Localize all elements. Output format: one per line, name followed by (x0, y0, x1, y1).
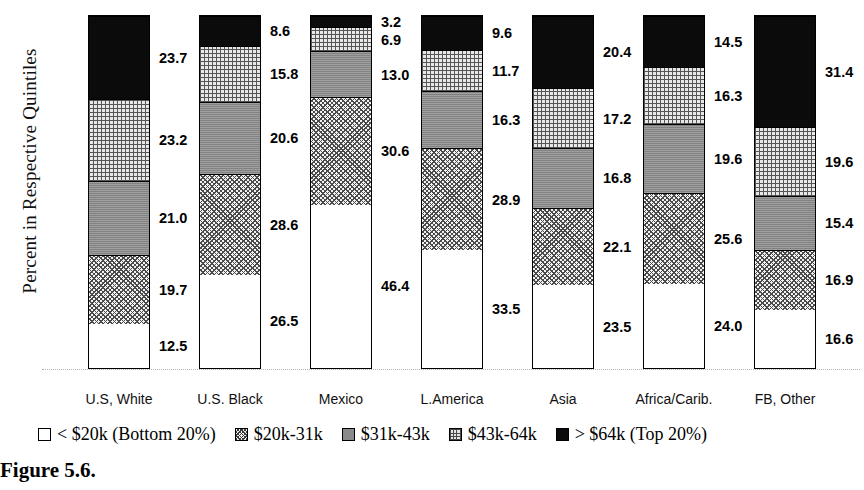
bar-segment[interactable]: 22.1 (533, 208, 593, 286)
bar-value-label: 19.7 (159, 282, 187, 298)
bar-segment[interactable]: 46.4 (311, 205, 371, 368)
legend-label: > $64k (Top 20%) (575, 424, 707, 445)
bar-segment[interactable]: 19.7 (89, 255, 149, 324)
bar-value-label: 19.6 (714, 151, 742, 167)
bar-value-label: 23.5 (603, 319, 631, 335)
legend-label: $43k-64k (468, 424, 537, 445)
bar-value-label: 16.8 (603, 170, 631, 186)
bar-segment[interactable]: 16.3 (422, 91, 482, 148)
bar-segment[interactable]: 16.9 (755, 250, 815, 309)
bar-stack[interactable]: 23.522.116.817.220.4 (532, 15, 594, 369)
bar-segment[interactable]: 11.7 (422, 50, 482, 91)
bar-value-label: 9.6 (492, 25, 512, 41)
bar-value-label: 46.4 (381, 278, 409, 294)
bar-stack[interactable]: 26.528.620.615.88.6 (199, 15, 261, 369)
bar-segment[interactable]: 25.6 (644, 193, 704, 283)
bar-value-label: 15.8 (270, 66, 298, 82)
bar-value-label: 8.6 (270, 23, 290, 39)
legend-label: $20k-31k (254, 424, 323, 445)
legend-item[interactable]: < $20k (Bottom 20%) (38, 424, 216, 445)
plot-area: 12.519.721.023.223.7U.S, White26.528.620… (42, 8, 860, 370)
bar-segment[interactable]: 20.6 (200, 102, 260, 175)
bar-segment[interactable]: 17.2 (533, 88, 593, 149)
bar-value-label: 17.2 (603, 111, 631, 127)
bar-segment[interactable]: 33.5 (422, 250, 482, 368)
bar-segment[interactable]: 28.6 (200, 174, 260, 275)
bar-segment[interactable]: 16.8 (533, 148, 593, 207)
bar-value-label: 31.4 (825, 64, 853, 80)
figure-root: Percent in Respective Quintiles 12.519.7… (0, 0, 864, 490)
bar-segment[interactable]: 30.6 (311, 97, 371, 205)
bar-segment[interactable]: 15.8 (200, 46, 260, 102)
y-axis-title: Percent in Respective Quintiles (19, 0, 41, 351)
bar-value-label: 15.4 (825, 215, 853, 231)
bar-segment[interactable]: 13.0 (311, 51, 371, 97)
legend-item[interactable]: $31k-43k (342, 424, 430, 445)
legend-item[interactable]: > $64k (Top 20%) (556, 424, 707, 445)
chart-legend: < $20k (Bottom 20%)$20k-31k$31k-43k$43k-… (38, 424, 838, 445)
bar-segment[interactable]: 9.6 (422, 16, 482, 50)
bar-value-label: 12.5 (159, 338, 187, 354)
bar-segment[interactable]: 28.9 (422, 148, 482, 250)
bar-value-label: 28.9 (492, 192, 520, 208)
bar-value-label: 19.6 (825, 154, 853, 170)
legend-swatch-icon (235, 428, 248, 441)
bar-value-label: 16.9 (825, 272, 853, 288)
axis-baseline (42, 369, 860, 370)
bar-value-label: 28.6 (270, 217, 298, 233)
x-axis-category-label: FB, Other (720, 391, 850, 407)
bar-stack[interactable]: 12.519.721.023.223.7 (88, 15, 150, 369)
bar-segment[interactable]: 19.6 (755, 127, 815, 196)
bar-value-label: 11.7 (492, 63, 519, 79)
legend-label: $31k-43k (361, 424, 430, 445)
legend-swatch-icon (38, 428, 51, 441)
bar-segment[interactable]: 14.5 (644, 16, 704, 67)
bar-segment[interactable]: 20.4 (533, 16, 593, 88)
bar-value-label: 20.6 (270, 130, 298, 146)
bar-segment[interactable]: 24.0 (644, 284, 704, 368)
bar-stack[interactable]: 46.430.613.06.93.2 (310, 15, 372, 369)
bar-value-label: 20.4 (603, 44, 631, 60)
bar-value-label: 13.0 (381, 67, 409, 83)
bar-segment[interactable]: 8.6 (200, 16, 260, 46)
bar-segment[interactable]: 15.4 (755, 196, 815, 250)
bar-segment[interactable]: 6.9 (311, 27, 371, 51)
bar-segment[interactable]: 26.5 (200, 275, 260, 368)
bar-value-label: 22.1 (603, 239, 631, 255)
bar-value-label: 23.7 (159, 50, 187, 66)
bar-value-label: 16.3 (714, 88, 742, 104)
bar-segment[interactable]: 31.4 (755, 16, 815, 127)
bar-value-label: 21.0 (159, 210, 187, 226)
bar-stack[interactable]: 24.025.619.616.314.5 (643, 15, 705, 369)
bar-value-label: 24.0 (714, 318, 742, 334)
bar-value-label: 3.2 (381, 14, 401, 30)
legend-label: < $20k (Bottom 20%) (57, 424, 216, 445)
legend-swatch-icon (342, 428, 355, 441)
bar-value-label: 6.9 (381, 32, 401, 48)
legend-item[interactable]: $20k-31k (235, 424, 323, 445)
bar-segment[interactable]: 19.6 (644, 124, 704, 193)
bar-value-label: 23.2 (159, 132, 187, 148)
legend-swatch-icon (556, 428, 569, 441)
bar-value-label: 26.5 (270, 313, 298, 329)
bar-stack[interactable]: 16.616.915.419.631.4 (754, 15, 816, 369)
legend-swatch-icon (449, 428, 462, 441)
bar-stack[interactable]: 33.528.916.311.79.6 (421, 15, 483, 369)
bar-segment[interactable]: 12.5 (89, 324, 149, 368)
bar-value-label: 16.6 (825, 331, 853, 347)
bar-value-label: 33.5 (492, 301, 520, 317)
bar-segment[interactable]: 23.7 (89, 16, 149, 99)
bar-value-label: 16.3 (492, 112, 520, 128)
bar-segment[interactable]: 3.2 (311, 16, 371, 27)
legend-item[interactable]: $43k-64k (449, 424, 537, 445)
bar-segment[interactable]: 23.5 (533, 285, 593, 368)
bar-value-label: 30.6 (381, 143, 409, 159)
figure-caption: Figure 5.6. (0, 458, 96, 483)
bar-value-label: 14.5 (714, 34, 742, 50)
bar-segment[interactable]: 23.2 (89, 99, 149, 181)
bar-segment[interactable]: 21.0 (89, 181, 149, 255)
bar-segment[interactable]: 16.3 (644, 67, 704, 124)
bar-value-label: 25.6 (714, 231, 742, 247)
bar-segment[interactable]: 16.6 (755, 310, 815, 368)
